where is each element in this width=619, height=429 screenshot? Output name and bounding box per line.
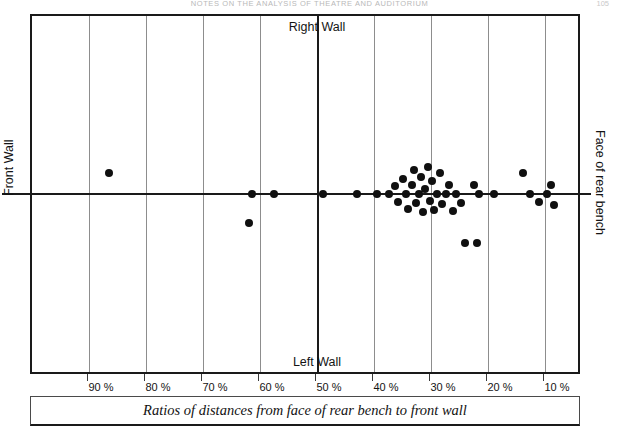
- data-point: [519, 169, 527, 177]
- figure-page: NOTES ON THE ANALYSIS OF THEATRE AND AUD…: [0, 0, 619, 429]
- data-point: [445, 181, 453, 189]
- data-point: [433, 190, 441, 198]
- data-point: [404, 205, 412, 213]
- data-point: [430, 206, 438, 214]
- data-point: [394, 198, 402, 206]
- tick-label-50: 50 %: [316, 381, 341, 393]
- tick-mark-30: [429, 374, 430, 381]
- tick-label-10: 10 %: [544, 381, 569, 393]
- face-of-rear-bench-axis-label: Face of rear bench: [593, 130, 607, 235]
- tick-label-60: 60 %: [259, 381, 284, 393]
- left-wall-label: Left Wall: [293, 355, 341, 369]
- tick-label-20: 20 %: [487, 381, 512, 393]
- data-point: [535, 198, 543, 206]
- tick-mark-70: [201, 374, 202, 381]
- data-point: [417, 173, 425, 181]
- data-point: [428, 177, 436, 185]
- data-point: [426, 197, 434, 205]
- data-point: [248, 190, 256, 198]
- data-point: [353, 190, 361, 198]
- data-point: [490, 190, 498, 198]
- data-point: [319, 190, 327, 198]
- data-point: [410, 166, 418, 174]
- tick-mark-60: [258, 374, 259, 381]
- data-point: [424, 163, 432, 171]
- data-point: [419, 208, 427, 216]
- data-point: [449, 207, 457, 215]
- data-point: [438, 200, 446, 208]
- data-point: [402, 190, 410, 198]
- data-point: [452, 190, 460, 198]
- x-axis: 90 %80 %70 %60 %50 %40 %30 %20 %10 %: [30, 374, 580, 396]
- baseline-axis: [2, 193, 591, 195]
- data-point: [547, 181, 555, 189]
- data-point: [550, 201, 558, 209]
- tick-label-30: 30 %: [430, 381, 455, 393]
- data-point: [105, 169, 113, 177]
- data-point: [245, 219, 253, 227]
- data-point: [373, 190, 381, 198]
- data-point: [436, 169, 444, 177]
- tick-mark-50: [315, 374, 316, 381]
- data-point: [470, 181, 478, 189]
- tick-mark-20: [486, 374, 487, 381]
- data-point: [473, 239, 481, 247]
- tick-mark-90: [87, 374, 88, 381]
- data-point: [391, 182, 399, 190]
- tick-label-40: 40 %: [373, 381, 398, 393]
- tick-label-70: 70 %: [202, 381, 227, 393]
- data-point: [475, 190, 483, 198]
- front-wall-axis-label: Front Wall: [2, 140, 16, 197]
- right-wall-label: Right Wall: [289, 20, 346, 34]
- page-number: 105: [596, 0, 609, 8]
- data-point: [270, 190, 278, 198]
- data-point: [461, 239, 469, 247]
- data-point: [543, 190, 551, 198]
- plot-frame: Right Wall Left Wall: [30, 14, 580, 374]
- data-point: [526, 190, 534, 198]
- data-point: [385, 190, 393, 198]
- caption-box: Ratios of distances from face of rear be…: [30, 396, 580, 426]
- data-point: [412, 199, 420, 207]
- running-head: NOTES ON THE ANALYSIS OF THEATRE AND AUD…: [0, 0, 619, 8]
- tick-label-90: 90 %: [88, 381, 113, 393]
- data-point: [421, 185, 429, 193]
- data-point: [408, 181, 416, 189]
- tick-label-80: 80 %: [145, 381, 170, 393]
- data-point: [442, 190, 450, 198]
- data-point: [457, 199, 465, 207]
- tick-mark-40: [372, 374, 373, 381]
- data-point: [399, 175, 407, 183]
- tick-mark-10: [543, 374, 544, 381]
- figure-caption: Ratios of distances from face of rear be…: [143, 402, 467, 419]
- tick-mark-80: [144, 374, 145, 381]
